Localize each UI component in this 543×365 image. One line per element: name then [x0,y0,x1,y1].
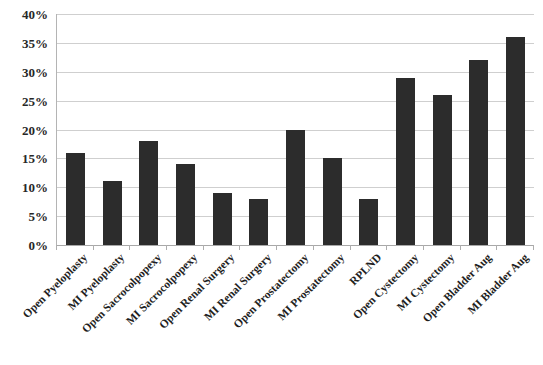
y-tick-label: 30% [22,65,48,78]
x-tick [460,245,461,250]
y-tick-label: 20% [22,123,48,136]
x-tick-label: RPLND [347,251,384,288]
bar [103,181,122,245]
bar [359,199,378,245]
x-tick [276,245,277,250]
bar [396,78,415,245]
y-axis: 40%35%30%25%20%15%10%5%0% [0,0,52,260]
bar [213,193,232,245]
bar [286,130,305,246]
x-tick [239,245,240,250]
x-axis: Open PyeloplastyMI PyeloplastyOpen Sacro… [0,251,543,365]
x-tick-label: Open Cystectomy [350,251,421,322]
x-tick [533,245,534,250]
x-tick-label-text: Open Bladder Aug [420,251,494,325]
x-tick-label: Open Pyeloplasty [21,251,91,321]
bars-series [57,14,534,245]
x-tick-label-text: Open Pyeloplasty [21,251,91,321]
x-tick [93,245,94,250]
bar [506,37,525,245]
bar-chart: 40%35%30%25%20%15%10%5%0% Open Pyeloplas… [0,0,543,365]
x-tick [386,245,387,250]
x-tick [56,245,57,250]
x-tick-label: Open Bladder Aug [420,251,494,325]
x-tick [423,245,424,250]
x-tick [166,245,167,250]
y-tick-label: 5% [29,210,49,223]
bar [176,164,195,245]
bar [433,95,452,245]
bar [469,60,488,245]
bar [323,158,342,245]
y-tick-label: 10% [22,181,48,194]
x-tick [350,245,351,250]
x-tick-label-text: MI Renal Surgery [202,251,274,323]
bar [66,153,85,245]
x-tick-label: MI Prostatectomy [275,251,347,323]
x-tick-label: MI Renal Surgery [202,251,274,323]
plot-area [56,14,534,245]
x-tick-label-text: MI Prostatectomy [275,251,347,323]
y-tick-label: 35% [22,36,48,49]
x-tick [203,245,204,250]
x-tick [129,245,130,250]
y-tick-label: 40% [22,8,48,21]
y-tick-label: 25% [22,94,48,107]
x-tick-label-text: RPLND [347,251,384,288]
x-tick [313,245,314,250]
y-tick-label: 0% [29,239,49,252]
x-tick [496,245,497,250]
bar [139,141,158,245]
y-tick-label: 15% [22,152,48,165]
x-tick-label-text: Open Cystectomy [350,251,421,322]
bar [249,199,268,245]
